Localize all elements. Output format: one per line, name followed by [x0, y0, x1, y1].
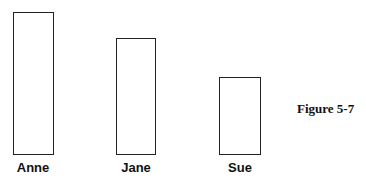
bar-jane [116, 38, 156, 155]
category-label-sue: Sue [210, 160, 270, 175]
category-label-jane: Jane [106, 160, 166, 175]
bar-sue [219, 77, 261, 155]
figure-caption: Figure 5-7 [297, 101, 354, 117]
bar-anne [13, 12, 54, 155]
category-label-anne: Anne [3, 160, 63, 175]
